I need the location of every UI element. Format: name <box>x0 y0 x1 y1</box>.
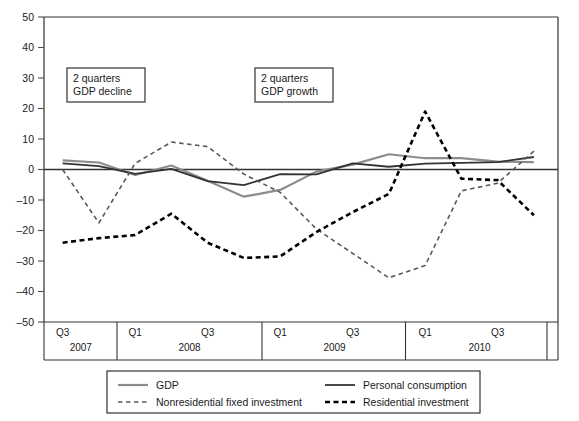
annotation-line-1: 2 quarters <box>261 72 308 84</box>
y-tick-label: 20 <box>22 102 34 114</box>
y-tick-label: 0 <box>28 163 34 175</box>
chart-background <box>0 0 579 421</box>
y-tick-label: –40 <box>16 285 34 297</box>
y-tick-label: –50 <box>16 316 34 328</box>
legend-label-personal-consumption: Personal consumption <box>363 379 467 391</box>
y-tick-label: 30 <box>22 72 34 84</box>
x-tick-label: Q3 <box>201 327 215 338</box>
y-tick-label: 40 <box>22 41 34 53</box>
legend-box: GDPPersonal consumptionNonresidential fi… <box>107 371 480 413</box>
x-year-label: 2007 <box>70 342 93 353</box>
y-tick-label: 10 <box>22 133 34 145</box>
legend-label-residential-investment: Residential investment <box>363 396 469 408</box>
x-tick-label: Q1 <box>128 327 142 338</box>
chart-stage: 50403020100–10–20–30–40–50 Q3Q1Q3Q1Q3Q1Q… <box>0 0 579 421</box>
annot-gdp-growth: 2 quartersGDP growth <box>255 68 333 102</box>
legend-label-nonresidential-fixed-investment: Nonresidential fixed investment <box>156 396 302 408</box>
annotation-line-2: GDP growth <box>261 85 318 97</box>
annot-gdp-decline: 2 quartersGDP decline <box>67 68 145 102</box>
x-tick-label: Q1 <box>273 327 287 338</box>
legend-label-gdp: GDP <box>156 379 179 391</box>
y-tick-label: 50 <box>22 11 34 23</box>
x-tick-label: Q3 <box>56 327 70 338</box>
annotation-line-1: 2 quarters <box>73 72 120 84</box>
economic-indicators-line-chart: 50403020100–10–20–30–40–50 Q3Q1Q3Q1Q3Q1Q… <box>0 0 579 421</box>
x-year-label: 2008 <box>178 342 201 353</box>
x-tick-label: Q3 <box>491 327 505 338</box>
y-tick-label: –10 <box>16 194 34 206</box>
x-year-label: 2009 <box>323 342 346 353</box>
y-tick-label: –30 <box>16 255 34 267</box>
x-tick-label: Q3 <box>346 327 360 338</box>
y-tick-label: –20 <box>16 224 34 236</box>
x-year-label: 2010 <box>468 342 491 353</box>
annotation-line-2: GDP decline <box>73 85 132 97</box>
x-tick-label: Q1 <box>418 327 432 338</box>
